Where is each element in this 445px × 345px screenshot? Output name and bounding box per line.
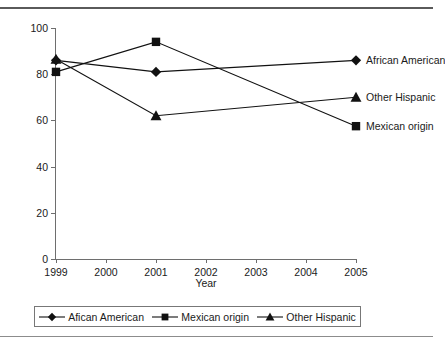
legend-item-label: Other Hispanic — [286, 311, 355, 323]
y-axis-tick-label: 40 — [36, 161, 48, 173]
diamond-marker — [48, 312, 56, 320]
x-axis-tick — [356, 259, 357, 263]
y-axis-tick — [51, 167, 55, 168]
legend-item-label: Afican American — [68, 311, 144, 323]
y-axis-tick — [51, 28, 55, 29]
square-marker — [352, 122, 360, 130]
top-divider-rule — [0, 7, 433, 9]
series-line — [56, 60, 356, 72]
triangle-marker — [51, 54, 62, 64]
triangle-marker — [351, 92, 362, 102]
y-axis-tick-label: 100 — [30, 22, 48, 34]
y-axis-tick-label: 60 — [36, 114, 48, 126]
series-end-label: Other Hispanic — [366, 91, 435, 103]
plot-area: 020406080100 199920002001200220032004200… — [56, 28, 356, 259]
legend-key-triangle — [257, 312, 283, 322]
x-axis-title: Year — [56, 277, 356, 289]
x-axis-tick — [156, 259, 157, 263]
square-marker — [162, 313, 169, 320]
y-axis-tick — [51, 213, 55, 214]
chart-legend: Afican AmericanMexican originOther Hispa… — [34, 306, 361, 327]
y-axis-tick — [51, 120, 55, 121]
series-end-label: African American — [366, 54, 445, 66]
series-end-label: Mexican origin — [366, 120, 434, 132]
legend-item-label: Mexican origin — [181, 311, 249, 323]
x-axis-tick — [106, 259, 107, 263]
x-axis-tick — [56, 259, 57, 263]
legend-item: Afican American — [39, 311, 144, 323]
legend-item: Mexican origin — [152, 311, 249, 323]
legend-key-diamond — [39, 312, 65, 322]
y-axis-tick-label: 0 — [42, 253, 48, 265]
series-plot — [56, 28, 356, 259]
square-marker — [52, 68, 60, 76]
x-axis-tick — [306, 259, 307, 263]
diamond-marker — [151, 67, 161, 77]
y-axis-tick-label: 80 — [36, 68, 48, 80]
series-line — [56, 42, 356, 126]
x-axis-tick — [256, 259, 257, 263]
square-marker — [152, 38, 160, 46]
diamond-marker — [351, 55, 361, 65]
x-axis-tick — [206, 259, 207, 263]
legend-key-square — [152, 312, 178, 322]
legend-item: Other Hispanic — [257, 311, 355, 323]
y-axis-tick — [51, 259, 55, 260]
y-axis-tick-label: 20 — [36, 207, 48, 219]
bottom-divider-rule — [0, 336, 433, 337]
